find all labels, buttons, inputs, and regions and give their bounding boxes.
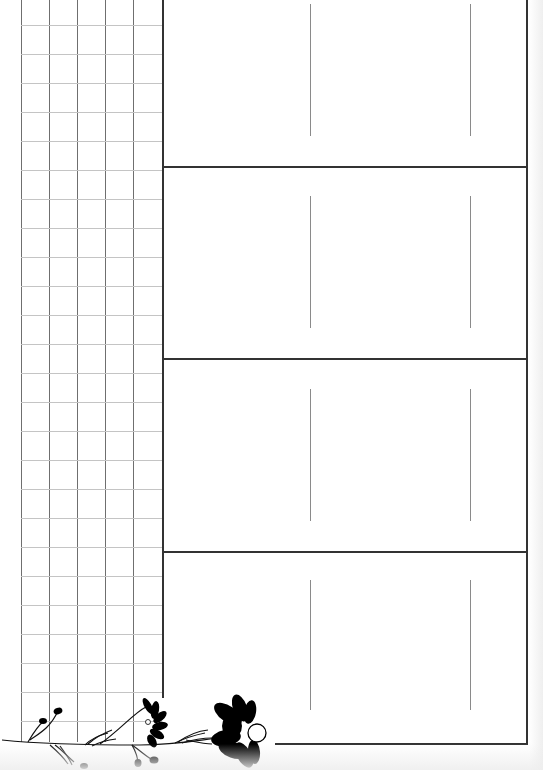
column-separator-line [470,196,471,328]
grid-row-line [21,315,162,316]
column-separator-line [310,580,311,710]
grid-row-line [21,663,162,664]
grid-row-line [21,83,162,84]
row-divider [162,358,527,360]
page-bottom-shadow [0,744,543,770]
grid-row-line [21,344,162,345]
grid-row-line [21,257,162,258]
row-divider [162,166,527,168]
page-edge-shadow [529,0,543,770]
grid-row-line [21,373,162,374]
column-separator-line [470,4,471,136]
column-separator-line [470,389,471,521]
grid-row-line [21,634,162,635]
grid-row-line [21,112,162,113]
grid-row-line [21,460,162,461]
grid-row-line [21,199,162,200]
grid-row-line [21,431,162,432]
grid-row-line [21,489,162,490]
grid-row-line [21,54,162,55]
grid-row-line [21,402,162,403]
column-separator-line [310,389,311,521]
grid-row-line [21,228,162,229]
grid-row-line [21,141,162,142]
daisy-flower-small-icon [140,696,168,749]
column-separator-line [470,580,471,710]
left-grid [0,0,170,770]
column-separator-line [310,4,311,136]
grid-row-line [21,518,162,519]
column-separator-line [310,196,311,328]
grid-row-line [21,286,162,287]
grid-row-line [21,605,162,606]
main-box-right-border [526,0,528,744]
grid-row-line [21,576,162,577]
grid-row-line [21,547,162,548]
grid-row-line [21,170,162,171]
grid-row-line [21,25,162,26]
row-divider [162,551,527,553]
main-box-left-border [162,0,164,698]
